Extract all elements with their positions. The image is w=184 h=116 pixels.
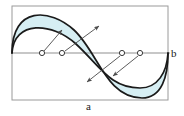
axis-point-marker-3 [119, 50, 124, 55]
axis-point-marker-2 [59, 50, 64, 55]
axis-point-marker-4 [137, 50, 142, 55]
inner-boundary-curve [12, 28, 168, 88]
axis-point-marker-1 [39, 50, 44, 55]
figure-container: b a [0, 0, 184, 116]
axis-label-a: a [86, 101, 91, 112]
axis-label-b: b [171, 48, 177, 59]
diagram-canvas [0, 0, 184, 116]
arrow-up-right-1 [44, 30, 62, 51]
